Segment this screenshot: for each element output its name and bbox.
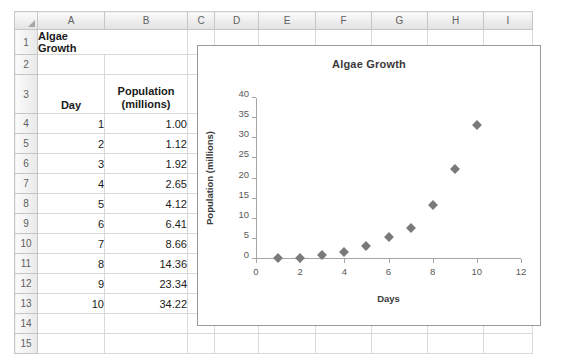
cell-a3-day-header[interactable]: Day: [38, 75, 105, 114]
cell-a9[interactable]: 6: [38, 214, 105, 234]
cell-b9[interactable]: 6.41: [105, 214, 188, 234]
column-header-f[interactable]: F: [316, 12, 372, 30]
cell-b2[interactable]: [105, 55, 188, 75]
cell-a13[interactable]: 10: [38, 294, 105, 314]
x-axis-tick: [433, 259, 434, 263]
cell-a2[interactable]: [38, 55, 105, 75]
data-point-marker[interactable]: [273, 254, 283, 264]
column-header-h[interactable]: H: [428, 12, 484, 30]
cell-a4[interactable]: 1: [38, 114, 105, 134]
cell-g15[interactable]: [372, 334, 428, 354]
cell-h15[interactable]: [428, 334, 484, 354]
column-header-c[interactable]: C: [188, 12, 215, 30]
chart-title: Algae Growth: [198, 58, 540, 70]
row-header-3[interactable]: 3: [15, 75, 38, 114]
y-axis-tick: [252, 157, 256, 158]
row-header-6[interactable]: 6: [15, 154, 38, 174]
y-axis-tick-label: 10: [238, 208, 249, 219]
data-point-marker[interactable]: [361, 241, 371, 251]
column-header-g[interactable]: G: [372, 12, 428, 30]
y-axis-tick: [252, 117, 256, 118]
y-axis-tick-label: 15: [238, 188, 249, 199]
y-axis-tick-label: 35: [238, 108, 249, 119]
data-point-marker[interactable]: [384, 232, 394, 242]
column-header-i[interactable]: I: [484, 12, 533, 30]
x-axis-tick: [344, 259, 345, 263]
row-header-14[interactable]: 14: [15, 314, 38, 334]
cell-e15[interactable]: [259, 334, 316, 354]
row-header-9[interactable]: 9: [15, 214, 38, 234]
cell-a8[interactable]: 5: [38, 194, 105, 214]
cell-a6[interactable]: 3: [38, 154, 105, 174]
data-point-marker[interactable]: [406, 223, 416, 233]
cell-a11[interactable]: 8: [38, 254, 105, 274]
cell-b11[interactable]: 14.36: [105, 254, 188, 274]
y-axis-tick: [252, 97, 256, 98]
population-header-line2: (millions): [105, 98, 187, 111]
y-axis-tick: [252, 198, 256, 199]
y-axis-tick: [252, 137, 256, 138]
y-axis-tick: [252, 238, 256, 239]
cell-b8[interactable]: 4.12: [105, 194, 188, 214]
plot-area[interactable]: 0510152025303540024681012: [256, 98, 521, 259]
column-header-b[interactable]: B: [105, 12, 188, 30]
column-header-a[interactable]: A: [38, 12, 105, 30]
cell-c15[interactable]: [188, 334, 215, 354]
cell-b6[interactable]: 1.92: [105, 154, 188, 174]
row-header-4[interactable]: 4: [15, 114, 38, 134]
cell-a14[interactable]: [38, 314, 105, 334]
cell-f15[interactable]: [316, 334, 372, 354]
row-header-11[interactable]: 11: [15, 254, 38, 274]
x-axis-tick-label: 0: [253, 266, 258, 277]
cell-b10[interactable]: 8.66: [105, 234, 188, 254]
row-header-10[interactable]: 10: [15, 234, 38, 254]
y-axis-title: Population (millions): [204, 131, 215, 225]
column-header-e[interactable]: E: [259, 12, 316, 30]
x-axis-tick: [477, 259, 478, 263]
data-point-marker[interactable]: [450, 164, 460, 174]
cell-a7[interactable]: 4: [38, 174, 105, 194]
embedded-chart[interactable]: Algae Growth Population (millions) Days …: [197, 45, 541, 326]
row-header-1[interactable]: 1: [15, 30, 38, 55]
y-axis-tick-label: 5: [244, 228, 249, 239]
y-axis-tick-label: 30: [238, 128, 249, 139]
cell-b13[interactable]: 34.22: [105, 294, 188, 314]
data-point-marker[interactable]: [428, 200, 438, 210]
cell-b15[interactable]: [105, 334, 188, 354]
cell-b5[interactable]: 1.12: [105, 134, 188, 154]
cell-b1[interactable]: [105, 30, 188, 55]
data-point-marker[interactable]: [295, 253, 305, 263]
cell-b12[interactable]: 23.34: [105, 274, 188, 294]
cell-a15[interactable]: [38, 334, 105, 354]
cell-a12[interactable]: 9: [38, 274, 105, 294]
select-all-corner[interactable]: [15, 12, 38, 30]
data-point-marker[interactable]: [472, 120, 482, 130]
y-axis-tick-label: 25: [238, 148, 249, 159]
row-header-7[interactable]: 7: [15, 174, 38, 194]
cell-b7[interactable]: 2.65: [105, 174, 188, 194]
row-header-12[interactable]: 12: [15, 274, 38, 294]
row-header-2[interactable]: 2: [15, 55, 38, 75]
column-header-d[interactable]: D: [215, 12, 259, 30]
corner-triangle-icon: [28, 20, 35, 27]
row-header-13[interactable]: 13: [15, 294, 38, 314]
cell-b14[interactable]: [105, 314, 188, 334]
cell-a10[interactable]: 7: [38, 234, 105, 254]
x-axis-tick-label: 6: [386, 266, 391, 277]
cell-i15[interactable]: [484, 334, 533, 354]
y-axis-tick-label: 0: [244, 249, 249, 260]
y-axis-tick: [252, 178, 256, 179]
data-point-marker[interactable]: [339, 247, 349, 257]
row-header-8[interactable]: 8: [15, 194, 38, 214]
y-axis-tick-label: 40: [238, 88, 249, 99]
x-axis-tick: [521, 259, 522, 263]
row-header-15[interactable]: 15: [15, 334, 38, 354]
cell-b4[interactable]: 1.00: [105, 114, 188, 134]
cell-a1[interactable]: Algae Growth: [38, 30, 105, 55]
cell-d15[interactable]: [215, 334, 259, 354]
y-axis-line: [256, 98, 257, 259]
cell-b3-population-header[interactable]: Population (millions): [105, 75, 188, 114]
cell-a5[interactable]: 2: [38, 134, 105, 154]
row-header-5[interactable]: 5: [15, 134, 38, 154]
